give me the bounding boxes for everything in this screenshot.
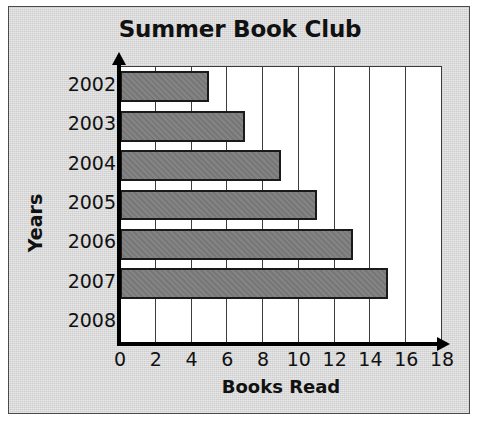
y-tick-2005: 2005 <box>46 191 116 213</box>
y-axis-line <box>117 62 121 346</box>
x-tick-16: 16 <box>386 348 426 370</box>
x-axis-tick-labels: 024681012141618 <box>0 348 480 374</box>
bar-2002 <box>120 71 209 102</box>
bar-2004 <box>120 150 281 181</box>
plot-area <box>120 66 442 342</box>
y-tick-2002: 2002 <box>46 73 116 95</box>
x-tick-10: 10 <box>279 348 319 370</box>
y-tick-2008: 2008 <box>46 309 116 331</box>
gridline <box>405 67 406 342</box>
x-axis-line <box>117 342 439 346</box>
y-tick-2004: 2004 <box>46 152 116 174</box>
x-tick-0: 0 <box>100 348 140 370</box>
x-tick-4: 4 <box>172 348 212 370</box>
chart-screenshot: Summer Book Club Years 20022003200420052… <box>0 0 480 422</box>
chart-title: Summer Book Club <box>0 16 480 42</box>
x-tick-14: 14 <box>350 348 390 370</box>
bar-2005 <box>120 190 317 221</box>
y-axis-tick-labels: 2002200320042005200620072008 <box>42 66 116 342</box>
y-tick-2003: 2003 <box>46 112 116 134</box>
x-tick-18: 18 <box>422 348 462 370</box>
x-tick-12: 12 <box>315 348 355 370</box>
x-tick-8: 8 <box>243 348 283 370</box>
y-axis-arrow-icon <box>112 52 126 65</box>
gridline <box>334 67 335 342</box>
x-tick-2: 2 <box>136 348 176 370</box>
y-tick-2006: 2006 <box>46 230 116 252</box>
bar-2003 <box>120 111 245 142</box>
y-tick-2007: 2007 <box>46 270 116 292</box>
gridline <box>441 67 442 342</box>
x-axis-arrow-icon <box>437 337 450 351</box>
bar-2007 <box>120 268 388 299</box>
gridline <box>369 67 370 342</box>
x-axis-label: Books Read <box>120 376 442 397</box>
bar-2006 <box>120 229 353 260</box>
x-tick-6: 6 <box>207 348 247 370</box>
